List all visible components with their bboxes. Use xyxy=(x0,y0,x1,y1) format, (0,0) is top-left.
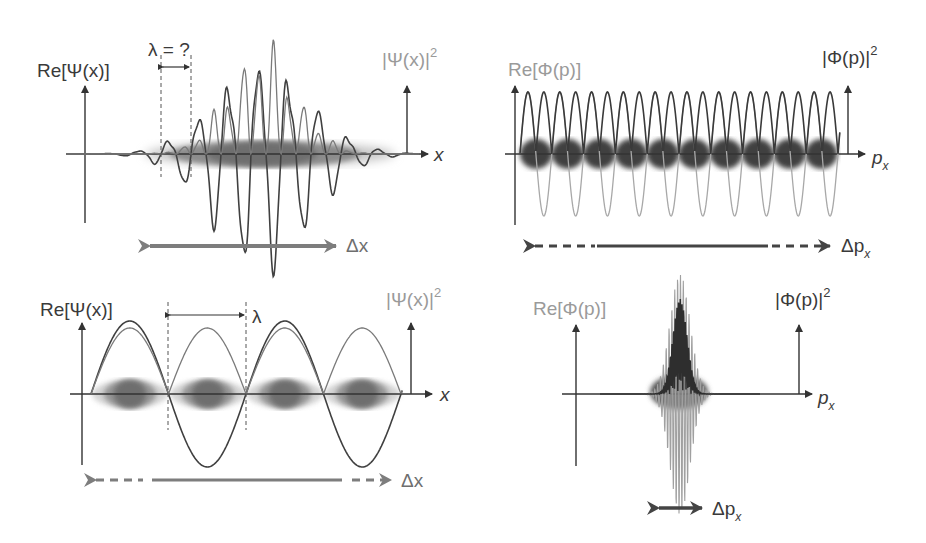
wavelength-question-label: λ = ? xyxy=(148,40,190,59)
abs-phi-squared-curve xyxy=(520,92,840,154)
px-axis-label: px xyxy=(818,388,835,407)
abs-psi-squared-curve xyxy=(66,40,420,154)
x-axis-label: x xyxy=(434,145,444,164)
px-axis-label: px xyxy=(872,148,889,167)
wavelength-label: λ xyxy=(252,307,262,326)
diagram-canvas xyxy=(0,0,926,543)
abs-phi-squared-label: |Φ(p)|2 xyxy=(822,48,878,67)
delta-px-label: Δpx xyxy=(712,499,741,518)
panel-top-left xyxy=(66,40,428,277)
re-phi-label: Re[Φ(p)] xyxy=(533,299,606,318)
x-axis-label: x xyxy=(440,385,450,404)
delta-x-label: Δx xyxy=(401,471,423,490)
panel-top-right xyxy=(505,86,865,246)
delta-px-label: Δpx xyxy=(841,236,870,255)
panel-bottom-left xyxy=(70,302,432,480)
abs-phi-squared-label: |Φ(p)|2 xyxy=(775,290,831,309)
delta-x-label: Δx xyxy=(346,236,368,255)
abs-psi-squared-label: |Ψ(x)|2 xyxy=(382,50,437,69)
abs-psi-squared-label: |Ψ(x)|2 xyxy=(386,290,441,309)
uncertainty-diagram: Re[Ψ(x)] |Ψ(x)|2 x λ = ? Δx Re[Φ(p)] |Φ(… xyxy=(0,0,926,543)
re-psi-label: Re[Ψ(x)] xyxy=(37,61,110,80)
abs-phi-squared-curve xyxy=(600,299,760,394)
re-psi-label: Re[Ψ(x)] xyxy=(40,300,113,319)
re-phi-label: Re[Φ(p)] xyxy=(508,60,581,79)
